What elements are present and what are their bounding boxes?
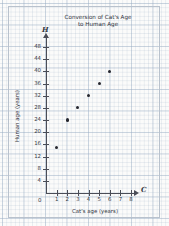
y-axis-tick <box>43 169 49 170</box>
y-axis-tick-label-wrap: 20 <box>26 129 41 135</box>
chart-title-line-1: Conversion of Cat's Age <box>40 14 156 21</box>
data-point <box>87 94 90 97</box>
y-axis-tick-label: 16 <box>27 141 41 146</box>
x-axis-arrow-icon <box>134 190 139 196</box>
x-axis-line <box>46 193 135 194</box>
x-axis-tick-label: 4 <box>84 197 94 202</box>
y-axis-tick-label-wrap: 8 <box>26 166 41 172</box>
y-axis-tick-label-wrap: 48 <box>26 44 41 50</box>
y-axis-variable-label: H <box>42 25 49 34</box>
y-axis-tick-label: 36 <box>27 81 41 86</box>
y-axis-tick-label-wrap: 12 <box>26 154 41 160</box>
x-axis-tick-label: 6 <box>105 197 115 202</box>
x-axis-tick-label: 3 <box>73 197 83 202</box>
y-axis-title: Human age (years) <box>14 71 20 161</box>
x-axis-tick-label: 1 <box>52 197 62 202</box>
data-point <box>76 106 79 109</box>
y-axis-tick-label-wrap: 32 <box>26 93 41 99</box>
y-axis-tick-label: 20 <box>27 129 41 134</box>
y-axis-tick-label: 48 <box>27 44 41 49</box>
y-axis-tick-label: 28 <box>27 105 41 110</box>
y-axis-tick <box>43 71 49 72</box>
y-axis-tick-label-wrap: 24 <box>26 117 41 123</box>
x-axis-tick-label: 7 <box>115 197 125 202</box>
scatter-chart: Conversion of Cat's Age to Human Age H C… <box>0 0 169 226</box>
data-point <box>55 146 58 149</box>
x-axis-tick-label: 2 <box>62 197 72 202</box>
data-point <box>66 118 69 121</box>
y-axis-tick <box>43 132 49 133</box>
y-axis-tick-label: 44 <box>27 56 41 61</box>
y-axis-tick <box>43 59 49 60</box>
y-axis-tick-label-wrap: 40 <box>26 68 41 74</box>
chart-title: Conversion of Cat's Age to Human Age <box>40 14 156 28</box>
chart-title-line-2: to Human Age <box>40 21 156 28</box>
data-point <box>98 82 101 85</box>
x-axis-tick-label: 5 <box>94 197 104 202</box>
y-axis-tick-label-wrap: 16 <box>26 141 41 147</box>
y-axis-tick-label: 40 <box>27 68 41 73</box>
x-axis-variable-label: C <box>141 185 147 194</box>
y-axis-tick-label-wrap: 4 <box>26 178 41 184</box>
y-axis-tick-label: 12 <box>27 154 41 159</box>
y-axis-tick <box>43 47 49 48</box>
y-axis-tick-label: 32 <box>27 93 41 98</box>
y-axis-tick <box>43 84 49 85</box>
y-axis-tick-label-wrap: 36 <box>26 81 41 87</box>
data-point <box>108 70 111 73</box>
x-axis-tick-label: 8 <box>126 197 136 202</box>
y-axis-tick-label: 24 <box>27 117 41 122</box>
y-axis-tick <box>43 181 49 182</box>
y-axis-tick-label: 8 <box>27 166 41 171</box>
y-axis-tick <box>43 96 49 97</box>
x-axis-title: Cat's age (years) <box>40 208 150 214</box>
y-axis-tick <box>43 108 49 109</box>
y-axis-tick-label-wrap: 44 <box>26 56 41 62</box>
y-axis-tick <box>43 157 49 158</box>
y-axis-line <box>46 38 47 194</box>
origin-label: 0 <box>38 197 41 203</box>
y-axis-tick-label: 4 <box>27 178 41 183</box>
y-axis-tick-label-wrap: 28 <box>26 105 41 111</box>
y-axis-tick <box>43 120 49 121</box>
y-axis-tick <box>43 144 49 145</box>
